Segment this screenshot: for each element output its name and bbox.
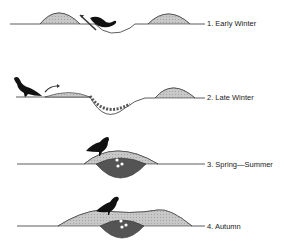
- label-late-winter: 2. Late Winter: [207, 93, 254, 102]
- nest-chamber: [96, 158, 146, 178]
- label-spring-summer: 3. Spring—Summer: [207, 160, 273, 169]
- bird-icon: [90, 17, 116, 28]
- melting-snow: [90, 96, 130, 109]
- egg: [124, 223, 127, 226]
- panel-spring-summer: [17, 137, 205, 178]
- egg: [115, 158, 118, 161]
- panel-late-winter: [14, 77, 205, 115]
- egg: [119, 219, 122, 222]
- snow-mound-left: [45, 93, 90, 98]
- egg: [120, 225, 123, 228]
- snow-mound-left: [40, 13, 80, 24]
- label-early-winter: 1. Early Winter: [207, 19, 256, 28]
- panel-early-winter: [10, 13, 205, 33]
- nest-chamber: [100, 220, 144, 238]
- label-autumn: 4. Autumn: [207, 222, 241, 231]
- panel-autumn: [17, 197, 205, 238]
- seasonal-diagram: [0, 0, 287, 251]
- egg: [120, 162, 123, 165]
- bird-icon: [14, 77, 42, 97]
- egg: [116, 164, 119, 167]
- snow-mound-right: [148, 14, 190, 24]
